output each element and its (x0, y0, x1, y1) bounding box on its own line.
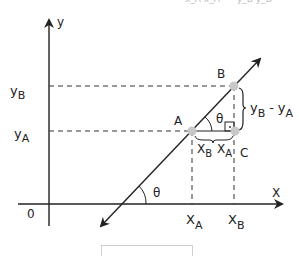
y-a-label: yA (14, 126, 30, 145)
y-b-label: yB (10, 83, 25, 102)
x-b-label: XB (228, 212, 244, 232)
angle-arc-top (205, 117, 212, 131)
xb-minus-xa-label: XBXA (197, 142, 232, 159)
x-a-label: XA (186, 212, 203, 232)
point-b-label: B (217, 67, 225, 81)
y-axis-label: y (57, 15, 64, 29)
point-b (230, 82, 239, 91)
yb-minus-ya-label: yB-yA (250, 100, 293, 120)
caption-box (101, 245, 193, 256)
point-c (231, 127, 240, 136)
angle-arc-bottom (139, 186, 146, 204)
sloped-line-lower (101, 204, 122, 226)
point-a (188, 127, 197, 136)
point-c-label: C (240, 146, 248, 160)
theta-bottom: θ (153, 186, 160, 200)
guide-lines (49, 86, 234, 204)
brace-vertical (239, 88, 246, 130)
point-a-label: A (174, 114, 183, 128)
origin-label: 0 (27, 207, 35, 221)
x-axis-label: X (272, 186, 280, 200)
theta-top: θ (216, 112, 223, 126)
